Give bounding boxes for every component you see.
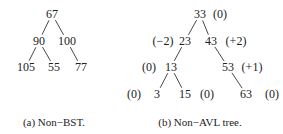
- tree-edge: [188, 20, 196, 35]
- tree-edge: [174, 73, 182, 88]
- tree-edge: [203, 20, 209, 34]
- tree-edge: [29, 47, 36, 60]
- tree-node: 43: [205, 35, 217, 47]
- balance-factor: (−2): [153, 35, 174, 47]
- tree-node: 23: [179, 35, 191, 47]
- balance-factor: (0): [213, 8, 227, 20]
- tree-edge: [42, 20, 49, 34]
- tree-node: 3: [154, 88, 160, 100]
- tree-node: 53: [222, 61, 234, 73]
- balance-factor: (+1): [242, 61, 263, 73]
- tree-edge: [70, 47, 77, 61]
- tree-node: 90: [33, 35, 45, 47]
- tree-edge: [55, 20, 63, 35]
- balance-factor: (0): [127, 88, 141, 100]
- tree-edge: [174, 47, 181, 61]
- balance-factor: (0): [265, 88, 279, 100]
- tree-node: 100: [58, 35, 76, 47]
- tree-node: 15: [179, 88, 191, 100]
- caption-b: (b) Non−AVL tree.: [158, 117, 242, 128]
- tree-node: 67: [46, 8, 58, 20]
- balance-factor: (0): [200, 88, 214, 100]
- tree-node: 105: [17, 61, 35, 73]
- tree-node: 77: [75, 61, 87, 73]
- tree-node: 33: [194, 8, 206, 20]
- tree-edge: [160, 73, 168, 88]
- caption-a: (a) Non−BST.: [23, 117, 85, 128]
- tree-node: 13: [165, 61, 177, 73]
- balance-factor: (+2): [226, 35, 247, 47]
- tree-node: 63: [240, 88, 252, 100]
- tree-node: 55: [48, 61, 60, 73]
- tree-edge: [42, 47, 50, 61]
- balance-factor: (0): [142, 61, 156, 73]
- tree-edge: [215, 47, 224, 61]
- tree-edge: [232, 73, 242, 88]
